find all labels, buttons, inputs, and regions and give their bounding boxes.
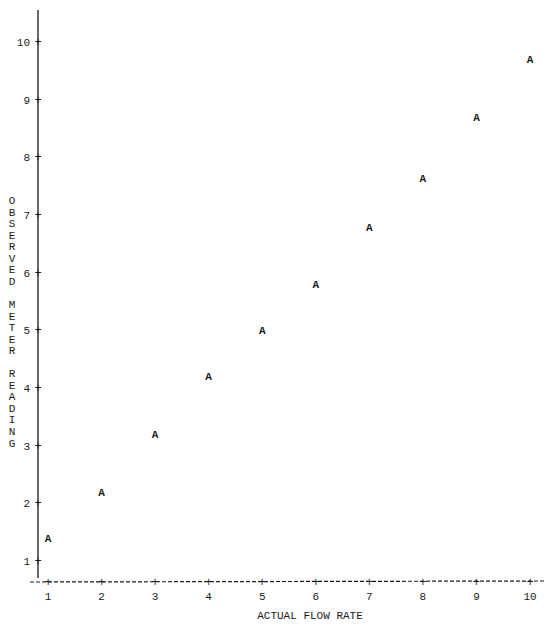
y-tick-mark: + <box>34 209 41 223</box>
y-axis-title-char: S <box>9 218 16 230</box>
x-tick-mark: + <box>152 576 159 590</box>
y-axis-title-char: T <box>9 322 16 334</box>
x-tick-label: 8 <box>420 591 427 603</box>
y-axis-title-char: O <box>9 195 16 207</box>
y-axis-title-char: E <box>9 311 16 323</box>
data-point: A <box>205 371 212 383</box>
data-point: A <box>152 429 159 441</box>
y-axis: +1+2+3+4+5+6+7+8+9+10 <box>17 10 42 578</box>
y-tick-mark: + <box>34 324 41 338</box>
y-axis-title-char: G <box>9 438 16 450</box>
y-tick-label: 7 <box>23 210 30 222</box>
x-tick-label: 4 <box>205 591 212 603</box>
x-tick-label: 3 <box>152 591 159 603</box>
y-axis-title-char: I <box>9 414 16 426</box>
y-axis-title-char: B <box>9 207 16 219</box>
x-tick-mark: + <box>205 576 212 590</box>
data-points: AAAAAAAAAA <box>45 54 534 545</box>
y-tick-label: 9 <box>23 95 30 107</box>
data-point: A <box>366 222 373 234</box>
x-tick-label: 5 <box>259 591 266 603</box>
x-tick-mark: + <box>526 576 533 590</box>
y-tick-label: 1 <box>23 556 30 568</box>
y-axis-title-char: V <box>9 253 16 265</box>
y-tick-label: 5 <box>23 325 30 337</box>
x-tick-mark: + <box>259 576 266 590</box>
x-tick-label: 2 <box>98 591 105 603</box>
data-point: A <box>420 173 427 185</box>
y-tick-mark: + <box>34 497 41 511</box>
y-tick-label: 4 <box>23 383 30 395</box>
y-axis-title-char: R <box>9 241 16 253</box>
x-tick-mark: + <box>44 576 51 590</box>
y-tick-label: 6 <box>23 268 30 280</box>
x-tick-label: 6 <box>312 591 319 603</box>
x-tick-label: 9 <box>473 591 480 603</box>
y-tick-mark: + <box>34 267 41 281</box>
data-point: A <box>259 325 266 337</box>
x-axis-title: ACTUAL FLOW RATE <box>257 610 363 622</box>
data-point: A <box>527 54 534 66</box>
scatter-chart: +1+2+3+4+5+6+7+8+9+10 +1+2+3+4+5+6+7+8+9… <box>0 0 550 627</box>
x-tick-mark: + <box>312 576 319 590</box>
y-axis-title-char: A <box>9 391 16 403</box>
x-tick-mark: + <box>419 576 426 590</box>
y-axis-title-char: E <box>9 334 16 346</box>
y-tick-mark: + <box>34 36 41 50</box>
x-axis-line <box>30 581 544 582</box>
y-axis-title: OBSERVEDMETERREADING <box>9 195 16 450</box>
y-tick-mark: + <box>34 440 41 454</box>
x-axis: +1+2+3+4+5+6+7+8+9+10 <box>30 576 544 603</box>
x-tick-mark: + <box>473 576 480 590</box>
x-tick-label: 10 <box>523 591 536 603</box>
y-tick-mark: + <box>34 151 41 165</box>
y-axis-title-char: D <box>9 276 16 288</box>
y-axis-title-char: E <box>9 264 16 276</box>
y-axis-title-char: E <box>9 380 16 392</box>
y-axis-title-char: R <box>9 368 16 380</box>
y-axis-title-char: N <box>9 426 16 438</box>
x-tick-label: 1 <box>45 591 52 603</box>
x-tick-mark: + <box>98 576 105 590</box>
y-tick-mark: + <box>34 382 41 396</box>
data-point: A <box>312 279 319 291</box>
x-tick-mark: + <box>366 576 373 590</box>
y-axis-title-char: M <box>9 299 16 311</box>
y-axis-title-char: D <box>9 403 16 415</box>
y-tick-label: 2 <box>23 498 30 510</box>
y-tick-label: 3 <box>23 441 30 453</box>
y-tick-mark: + <box>34 94 41 108</box>
y-tick-label: 10 <box>17 37 30 49</box>
y-tick-mark: + <box>34 555 41 569</box>
y-tick-label: 8 <box>23 152 30 164</box>
y-axis-title-char: E <box>9 230 16 242</box>
data-point: A <box>98 487 105 499</box>
x-tick-label: 7 <box>366 591 373 603</box>
data-point: A <box>45 533 52 545</box>
y-axis-title-char: R <box>9 345 16 357</box>
data-point: A <box>473 112 480 124</box>
